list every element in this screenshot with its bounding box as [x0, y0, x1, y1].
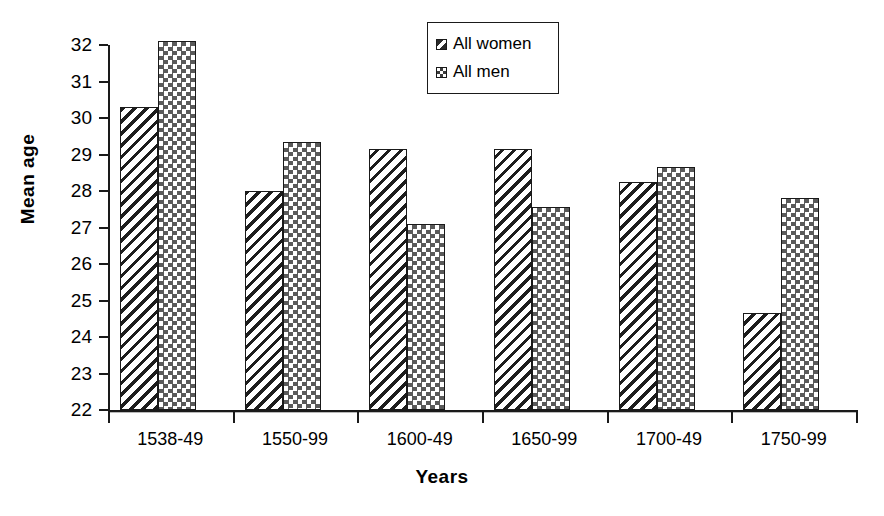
legend-item-women: All women [436, 30, 558, 58]
y-axis-line [108, 45, 110, 410]
bar-men-1550-99 [283, 142, 321, 410]
x-tick-label: 1650-99 [511, 429, 577, 450]
y-tick-label: 29 [71, 143, 92, 165]
bar-men-1700-49 [657, 167, 695, 410]
y-tick-label: 23 [71, 362, 92, 384]
diagonal-hatch-swatch-icon [436, 39, 447, 50]
y-tick-30: 30 [99, 117, 108, 119]
y-tick-29: 29 [99, 154, 108, 156]
legend: All women All men [427, 22, 559, 94]
plot-area: 3231302928272625242322 1538-491550-99160… [108, 45, 856, 410]
x-tick [233, 412, 235, 423]
bar-chart: Mean age Years 3231302928272625242322 15… [0, 0, 884, 516]
bar-men-1538-49 [158, 41, 196, 410]
x-axis-title: Years [0, 466, 884, 488]
y-tick-label: 30 [71, 107, 92, 129]
y-tick-31: 31 [99, 81, 108, 83]
bar-women-1650-99 [494, 149, 532, 410]
x-tick [108, 412, 110, 423]
y-tick-label: 28 [71, 180, 92, 202]
y-tick-label: 26 [71, 253, 92, 275]
y-tick-label: 32 [71, 34, 92, 56]
bar-women-1538-49 [120, 107, 158, 410]
legend-label-women: All women [453, 34, 531, 54]
y-tick-28: 28 [99, 190, 108, 192]
x-tick [607, 412, 609, 423]
y-tick-25: 25 [99, 300, 108, 302]
y-tick-32: 32 [99, 44, 108, 46]
x-tick [482, 412, 484, 423]
bar-women-1700-49 [619, 182, 657, 410]
x-tick [731, 412, 733, 423]
x-tick-label: 1750-99 [761, 429, 827, 450]
y-axis-title: Mean age [17, 99, 39, 259]
y-tick-24: 24 [99, 336, 108, 338]
y-tick-label: 22 [71, 399, 92, 421]
x-tick-label: 1700-49 [636, 429, 702, 450]
x-tick [357, 412, 359, 423]
x-tick-label: 1538-49 [137, 429, 203, 450]
checkerboard-swatch-icon [436, 67, 447, 78]
x-tick-label: 1550-99 [262, 429, 328, 450]
legend-item-men: All men [436, 58, 558, 86]
y-tick-label: 31 [71, 70, 92, 92]
bar-men-1600-49 [407, 224, 445, 410]
bar-men-1750-99 [781, 198, 819, 410]
bar-women-1600-49 [369, 149, 407, 410]
y-tick-27: 27 [99, 227, 108, 229]
bar-women-1750-99 [743, 313, 781, 410]
y-tick-26: 26 [99, 263, 108, 265]
y-tick-23: 23 [99, 373, 108, 375]
x-tick-label: 1600-49 [387, 429, 453, 450]
x-tick [856, 412, 858, 423]
y-tick-label: 25 [71, 289, 92, 311]
y-tick-label: 27 [71, 216, 92, 238]
bar-women-1550-99 [245, 191, 283, 410]
legend-label-men: All men [453, 62, 510, 82]
y-tick-22: 22 [99, 409, 108, 411]
bar-men-1650-99 [532, 207, 570, 410]
y-tick-label: 24 [71, 326, 92, 348]
